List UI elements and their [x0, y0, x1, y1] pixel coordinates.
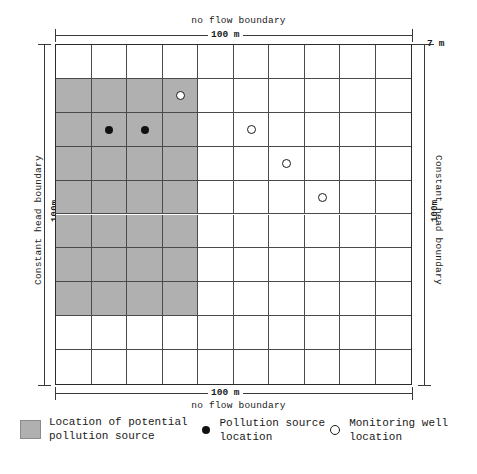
grid-cell	[234, 350, 270, 384]
right-boundary-label: Constant head boundary	[433, 155, 444, 285]
grid-cell	[269, 215, 305, 249]
grid-cell	[305, 113, 341, 147]
grid-cell	[198, 248, 234, 282]
grid-cell	[269, 181, 305, 215]
shaded-square-icon	[20, 420, 41, 439]
legend-label-pollution-source: Pollution source location	[219, 416, 325, 444]
top-dimension-tick-left	[55, 29, 56, 42]
grid-cell	[305, 350, 341, 384]
thickness-label: 7 m	[427, 39, 445, 49]
grid-cell	[92, 350, 128, 384]
grid-cell-shaded	[56, 147, 92, 181]
grid-cell-shaded	[92, 79, 128, 113]
pollution-source-marker	[105, 126, 113, 134]
grid-cell-shaded	[163, 282, 199, 316]
grid-cell	[376, 282, 412, 316]
grid-cell	[340, 79, 376, 113]
grid-cell	[234, 79, 270, 113]
top-dimension-tick-right	[412, 29, 413, 42]
grid-cell	[127, 45, 163, 79]
grid-cell	[269, 113, 305, 147]
grid-cell	[269, 350, 305, 384]
monitoring-well-marker	[318, 193, 327, 202]
grid-cell	[92, 45, 128, 79]
grid-cell-shaded	[56, 248, 92, 282]
grid-cell	[198, 181, 234, 215]
grid-cell	[340, 45, 376, 79]
grid-cell-shaded	[127, 248, 163, 282]
bottom-dimension-label: 100 m	[208, 387, 243, 398]
grid-cell	[56, 45, 92, 79]
grid-cell-shaded	[56, 282, 92, 316]
grid-cell	[269, 79, 305, 113]
grid-cell	[305, 316, 341, 350]
grid-cell-shaded	[92, 282, 128, 316]
grid-cell-shaded	[163, 113, 199, 147]
grid-cell	[234, 215, 270, 249]
grid-cell	[340, 282, 376, 316]
grid-cell	[198, 316, 234, 350]
grid-cell	[376, 79, 412, 113]
model-grid	[55, 44, 412, 385]
bottom-dimension-tick-left	[55, 387, 56, 400]
grid-cell	[269, 248, 305, 282]
grid-cell	[198, 147, 234, 181]
grid-cell	[198, 79, 234, 113]
grid-cell-shaded	[92, 147, 128, 181]
legend-item-monitoring-well: Monitoring well location	[330, 415, 467, 444]
grid-cell-shaded	[127, 181, 163, 215]
grid-cell-shaded	[127, 147, 163, 181]
left-dimension-line	[44, 44, 45, 385]
right-dimension-tick-bottom	[418, 385, 431, 386]
legend-item-potential-source: Location of potential pollution source	[20, 415, 202, 443]
grid-cell-shaded	[56, 79, 92, 113]
top-boundary-label: no flow boundary	[0, 16, 477, 26]
grid-cell-shaded	[127, 79, 163, 113]
grid-cell	[376, 350, 412, 384]
legend-item-pollution-source: Pollution source location	[202, 415, 330, 444]
grid-cell	[269, 282, 305, 316]
monitoring-well-marker	[247, 125, 256, 134]
grid-cell	[376, 147, 412, 181]
right-dimension-line	[424, 44, 425, 385]
grid-cell	[305, 282, 341, 316]
grid-cell	[269, 45, 305, 79]
grid-cell	[340, 316, 376, 350]
grid-cell	[376, 316, 412, 350]
grid-cell	[92, 316, 128, 350]
open-circle-icon	[330, 425, 340, 435]
left-dimension-tick-bottom	[38, 385, 51, 386]
pollution-source-marker	[141, 126, 149, 134]
top-dimension-label: 100 m	[208, 29, 243, 40]
grid-cell	[376, 181, 412, 215]
grid-cell	[340, 350, 376, 384]
grid-cell	[305, 147, 341, 181]
grid-cell	[340, 248, 376, 282]
grid-cell-shaded	[56, 181, 92, 215]
grid-cell-shaded	[92, 181, 128, 215]
grid-cell	[234, 282, 270, 316]
grid-cell	[305, 79, 341, 113]
bottom-boundary-label: no flow boundary	[0, 401, 477, 411]
grid-cell	[340, 147, 376, 181]
grid-cell-shaded	[127, 282, 163, 316]
grid-cell	[163, 350, 199, 384]
legend: Location of potential pollution source P…	[20, 415, 467, 463]
grid-cell	[127, 350, 163, 384]
grid-cell-shaded	[92, 248, 128, 282]
grid-cell	[56, 350, 92, 384]
grid-cell-shaded	[163, 147, 199, 181]
grid-cell	[234, 147, 270, 181]
grid-cell	[234, 316, 270, 350]
filled-circle-icon	[202, 426, 210, 434]
grid-cell-shaded	[92, 215, 128, 249]
grid-cell	[269, 316, 305, 350]
grid-cell	[198, 215, 234, 249]
left-boundary-label: Constant head boundary	[33, 155, 44, 285]
grid-cell	[305, 45, 341, 79]
grid-cell	[163, 45, 199, 79]
grid-cell	[376, 113, 412, 147]
grid-cell	[163, 316, 199, 350]
grid-cell-shaded	[163, 248, 199, 282]
grid-cell	[376, 45, 412, 79]
